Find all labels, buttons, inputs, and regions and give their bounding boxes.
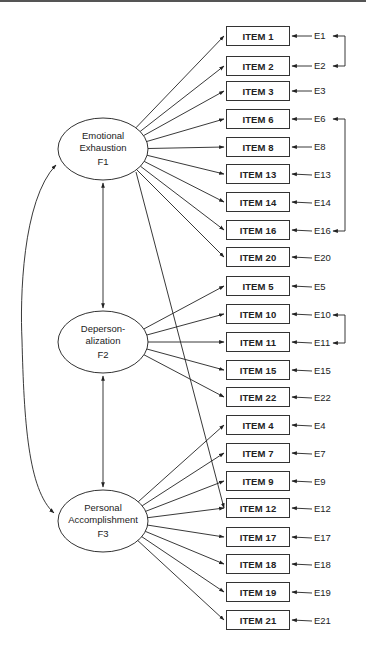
error-arrow bbox=[292, 425, 312, 426]
error-arrow bbox=[292, 202, 312, 203]
item-label: ITEM 10 bbox=[240, 309, 277, 320]
error-arrow bbox=[292, 453, 312, 454]
error-arrow bbox=[292, 564, 312, 565]
factor-f1-name-line1: Emotional bbox=[82, 130, 124, 142]
item-box: ITEM 1 bbox=[226, 26, 290, 46]
error-term-label: E10 bbox=[314, 310, 331, 320]
error-term-label: E3 bbox=[314, 86, 326, 96]
item-box: ITEM 9 bbox=[226, 471, 290, 491]
error-term-label: E14 bbox=[314, 198, 331, 208]
error-term-label: E7 bbox=[314, 449, 326, 459]
error-term-label: E16 bbox=[314, 226, 331, 236]
error-term-label: E15 bbox=[314, 366, 331, 376]
item-label: ITEM 4 bbox=[242, 420, 273, 431]
error-term-label: E4 bbox=[314, 421, 326, 431]
loading-arrow bbox=[148, 147, 224, 149]
loading-arrow bbox=[147, 119, 224, 142]
item-box: ITEM 6 bbox=[226, 109, 290, 129]
error-term-label: E13 bbox=[314, 170, 331, 180]
loading-arrow bbox=[137, 170, 224, 257]
item-box: ITEM 11 bbox=[226, 332, 290, 352]
factor-f1-label: F1 bbox=[97, 156, 108, 168]
item-box: ITEM 3 bbox=[226, 81, 290, 101]
factor-f3-name-line1: Personal bbox=[84, 502, 122, 514]
loading-arrow bbox=[138, 425, 224, 502]
item-box: ITEM 2 bbox=[226, 56, 290, 76]
error-arrow bbox=[292, 397, 312, 398]
item-label: ITEM 7 bbox=[242, 448, 273, 459]
loading-arrow bbox=[148, 525, 224, 537]
error-term-label: E2 bbox=[314, 61, 326, 71]
path-diagram-wires bbox=[0, 0, 366, 655]
item-label: ITEM 15 bbox=[240, 365, 277, 376]
item-label: ITEM 18 bbox=[240, 559, 277, 570]
item-label: ITEM 2 bbox=[242, 61, 273, 72]
loading-arrow bbox=[145, 531, 224, 564]
item-label: ITEM 12 bbox=[240, 503, 277, 514]
error-term-label: E6 bbox=[314, 114, 326, 124]
item-box: ITEM 16 bbox=[226, 220, 290, 240]
item-box: ITEM 21 bbox=[226, 610, 290, 630]
error-arrow bbox=[292, 314, 312, 315]
loading-arrow bbox=[147, 155, 224, 174]
item-label: ITEM 11 bbox=[240, 337, 276, 348]
item-box: ITEM 19 bbox=[226, 582, 290, 602]
item-label: ITEM 20 bbox=[240, 252, 277, 263]
error-term-label: E9 bbox=[314, 477, 326, 487]
error-arrow bbox=[292, 342, 312, 343]
item-box: ITEM 14 bbox=[226, 192, 290, 212]
item-label: ITEM 21 bbox=[240, 615, 277, 626]
item-label: ITEM 9 bbox=[242, 476, 273, 487]
loading-arrow bbox=[144, 355, 224, 397]
error-arrow bbox=[292, 620, 312, 621]
error-covariance-bracket bbox=[333, 315, 345, 343]
error-term-label: E8 bbox=[314, 142, 326, 152]
item-box: ITEM 5 bbox=[226, 276, 290, 296]
factor-f2-label: F2 bbox=[97, 349, 108, 361]
item-label: ITEM 3 bbox=[242, 86, 273, 97]
error-arrow bbox=[292, 481, 312, 482]
loading-arrow bbox=[148, 508, 224, 518]
factor-f3-label: F3 bbox=[97, 528, 108, 540]
error-term-label: E11 bbox=[314, 338, 330, 348]
item-box: ITEM 4 bbox=[226, 415, 290, 435]
error-arrow bbox=[292, 230, 312, 231]
item-box: ITEM 18 bbox=[226, 554, 290, 574]
error-term-label: E12 bbox=[314, 504, 331, 514]
loading-arrow bbox=[140, 166, 224, 230]
error-term-label: E19 bbox=[314, 588, 331, 598]
factor-f1-name-line2: Exhaustion bbox=[79, 142, 126, 154]
factor-f3: Personal Accomplishment F3 bbox=[58, 490, 148, 552]
item-box: ITEM 15 bbox=[226, 360, 290, 380]
item-label: ITEM 13 bbox=[240, 169, 277, 180]
error-arrow bbox=[292, 286, 312, 287]
item-box: ITEM 20 bbox=[226, 247, 290, 267]
item-label: ITEM 19 bbox=[240, 587, 277, 598]
error-arrow bbox=[292, 257, 312, 258]
item-label: ITEM 6 bbox=[242, 114, 273, 125]
item-box: ITEM 13 bbox=[226, 164, 290, 184]
item-label: ITEM 1 bbox=[242, 31, 273, 42]
error-arrow bbox=[292, 370, 312, 371]
loading-arrow bbox=[147, 314, 224, 335]
item-label: ITEM 22 bbox=[240, 392, 277, 403]
error-arrow bbox=[292, 174, 312, 175]
factor-f3-name-line2: Accomplishment bbox=[68, 514, 138, 526]
error-term-label: E17 bbox=[314, 533, 331, 543]
error-arrow bbox=[292, 537, 312, 538]
item-box: ITEM 12 bbox=[226, 498, 290, 518]
loading-arrow bbox=[136, 36, 224, 128]
error-term-label: E21 bbox=[314, 616, 331, 626]
loading-arrow bbox=[144, 161, 224, 202]
item-box: ITEM 8 bbox=[226, 137, 290, 157]
error-arrow bbox=[292, 508, 312, 509]
cov-f1-f3-arc bbox=[21, 165, 56, 513]
factor-f2-name-line2: alization bbox=[86, 335, 121, 347]
item-label: ITEM 14 bbox=[240, 197, 277, 208]
item-box: ITEM 10 bbox=[226, 304, 290, 324]
item-box: ITEM 7 bbox=[226, 443, 290, 463]
error-term-label: E22 bbox=[314, 393, 331, 403]
factor-f2: Deperson- alization F2 bbox=[58, 311, 148, 373]
factor-f1: Emotional Exhaustion F1 bbox=[58, 118, 148, 180]
error-term-label: E20 bbox=[314, 253, 331, 263]
